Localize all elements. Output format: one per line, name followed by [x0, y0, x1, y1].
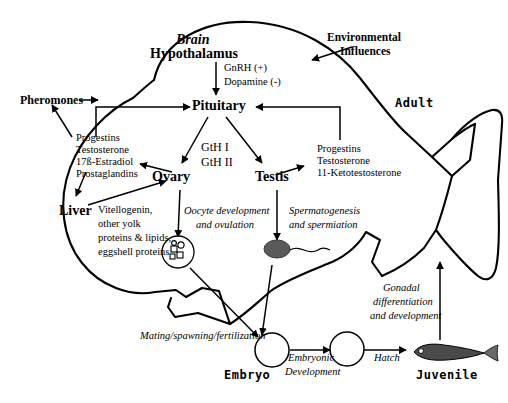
gonadal-line1: Gonadal	[383, 282, 420, 294]
pheromones-label: Pheromones	[20, 93, 83, 107]
male-steroid-2: Testosterone	[317, 155, 370, 167]
feedback-male-to-pituitary	[256, 107, 340, 140]
spermatogenesis-line1: Spermatogenesis	[289, 205, 360, 217]
sperm-icon	[264, 240, 330, 258]
fish-reproduction-diagram: Brain Hypothalamus GnRH (+) Dopamine (-)…	[0, 0, 508, 403]
dopamine-label: Dopamine (-)	[224, 76, 281, 88]
juvenile-label: Juvenile	[416, 368, 478, 382]
liver-label: Liver	[59, 203, 92, 220]
liver-product-1: Vitellogenin,	[98, 204, 152, 216]
embryonic-development-line1: Embryonic	[288, 352, 334, 364]
liver-product-4: eggshell proteins	[98, 246, 169, 258]
gonadal-line2: differentiation	[373, 296, 433, 308]
late-embryo-circle	[330, 332, 364, 366]
arrow-ovary-to-oocyte	[178, 190, 180, 237]
female-steroid-3: 17ß-Estradiol	[76, 156, 133, 168]
female-steroid-1: Progestins	[76, 132, 120, 144]
environmental-influences-line1: Environmental	[327, 31, 401, 45]
spermatogenesis-line2: and spermiation	[289, 219, 358, 231]
male-steroid-3: 11-Ketotestosterone	[317, 167, 401, 179]
juvenile-larva-icon	[414, 344, 498, 361]
ovary-label: Ovary	[152, 169, 190, 186]
testis-label: Testis	[255, 169, 289, 186]
mating-label: Mating/spawning/fertilization	[140, 330, 265, 342]
arrow-oocyte-to-embryo	[190, 268, 258, 337]
gth2-label: GtH II	[201, 155, 233, 169]
gnrh-label: GnRH (+)	[224, 62, 267, 74]
female-steroid-2: Testosterone	[76, 144, 129, 156]
pituitary-label: Pituitary	[192, 98, 246, 115]
fish-tail-fin	[382, 110, 502, 279]
hypothalamus-label: Hypothalamus	[150, 46, 238, 63]
oocyte-development-line1: Oocyte development	[184, 205, 269, 217]
male-steroid-1: Progestins	[317, 143, 361, 155]
diagram-artwork	[0, 0, 508, 403]
oocyte-development-line2: and ovulation	[196, 219, 254, 231]
arrow-sperm-to-embryo	[262, 265, 272, 335]
embryonic-development-line2: Development	[285, 366, 340, 378]
environmental-influences-line2: Influences	[340, 45, 390, 59]
gonadal-line3: and development	[370, 310, 441, 322]
adult-label: Adult	[395, 96, 434, 110]
arrow-steroids-to-pheromones	[52, 105, 72, 137]
liver-product-3: proteins & lipids,	[98, 232, 171, 244]
embryo-label: Embryo	[224, 368, 270, 382]
female-steroid-4: Prostaglandins	[76, 168, 138, 180]
liver-product-2: other yolk	[98, 218, 141, 230]
gth1-label: GtH I	[201, 140, 229, 154]
hatch-label: Hatch	[374, 352, 400, 364]
